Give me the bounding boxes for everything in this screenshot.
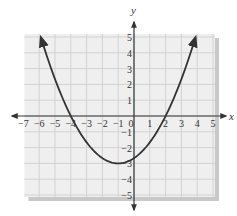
x-tick-label: 5	[211, 118, 216, 129]
x-tick-label: 4	[195, 118, 200, 129]
y-tick-label: 3	[127, 64, 132, 75]
x-tick-label: 1	[147, 118, 152, 129]
parabola-chart: −7−6−5−4−3−2−1012345 −5−4−3−2−112345 x y	[0, 0, 237, 216]
y-tick-label: −5	[121, 190, 132, 201]
x-tick-label: −6	[34, 118, 45, 129]
x-tick-label: −3	[81, 118, 92, 129]
y-tick-label: 4	[127, 48, 132, 59]
y-tick-label: 5	[127, 32, 132, 43]
x-tick-label: −7	[18, 118, 29, 129]
x-tick-label: 3	[179, 118, 184, 129]
x-tick-label: −5	[50, 118, 61, 129]
y-tick-label: −2	[121, 143, 132, 154]
y-tick-label: 1	[127, 95, 132, 106]
x-axis-label: x	[228, 110, 234, 122]
y-tick-label: −4	[121, 174, 132, 185]
y-tick-label: −1	[121, 127, 132, 138]
y-tick-label: 2	[127, 79, 132, 90]
y-axis-label: y	[130, 4, 136, 16]
x-tick-label: −2	[97, 118, 108, 129]
